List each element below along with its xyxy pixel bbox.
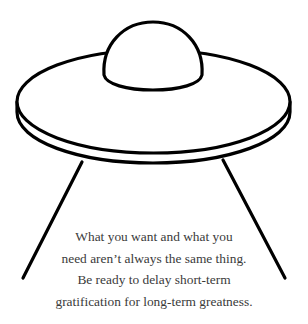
quote-line: gratification for long-term greatness.	[0, 291, 308, 313]
quote-text: What you want and what you need aren’t a…	[0, 226, 308, 312]
quote-line: What you want and what you	[0, 226, 308, 248]
saucer-dome	[104, 22, 202, 90]
quote-line: Be ready to delay short-term	[0, 269, 308, 291]
quote-line: need aren’t always the same thing.	[0, 248, 308, 270]
